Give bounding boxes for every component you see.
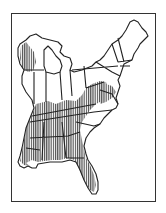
michigan-lp (44, 46, 62, 74)
hatched-range (20, 42, 116, 192)
range-virginia (100, 84, 116, 104)
range-map (0, 0, 166, 213)
